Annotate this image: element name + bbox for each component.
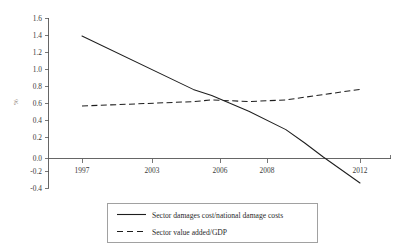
legend-label-sector-value-added: Sector value added/GDP bbox=[152, 228, 227, 237]
y-axis-ticks bbox=[45, 19, 49, 189]
chart-figure: 1.6 1.4 1.2 1.0 0.8 0.6 0.4 0.2 0.0 -0.2… bbox=[0, 0, 403, 250]
y-tick-label-0-2: 0.2 bbox=[33, 133, 43, 142]
x-tick-label-2003: 2003 bbox=[145, 166, 160, 175]
series-line-sector-damages-cost bbox=[82, 36, 360, 183]
legend-box bbox=[108, 204, 318, 243]
y-tick-label-1-0: 1.0 bbox=[33, 65, 43, 74]
y-tick-label-1-6: 1.6 bbox=[33, 14, 43, 23]
y-tick-label-0-6: 0.6 bbox=[33, 99, 43, 108]
y-tick-label-0-8: 0.8 bbox=[33, 82, 43, 91]
y-tick-label-neg-0-4: -0.4 bbox=[30, 184, 42, 193]
x-tick-label-2008: 2008 bbox=[260, 166, 275, 175]
series-line-sector-value-added bbox=[82, 89, 360, 106]
y-tick-label-1-2: 1.2 bbox=[33, 48, 43, 57]
line-chart: 1.6 1.4 1.2 1.0 0.8 0.6 0.4 0.2 0.0 -0.2… bbox=[0, 0, 403, 250]
y-tick-label-1-4: 1.4 bbox=[33, 31, 43, 40]
legend-label-sector-damages-cost: Sector damages cost/national damage cost… bbox=[152, 211, 283, 220]
chart-legend: Sector damages cost/national damage cost… bbox=[108, 204, 318, 243]
x-tick-label-1997: 1997 bbox=[75, 166, 90, 175]
x-tick-label-2012: 2012 bbox=[353, 166, 368, 175]
y-tick-label-0-4: 0.4 bbox=[33, 116, 43, 125]
y-axis-title: % bbox=[12, 99, 20, 105]
y-tick-label-0-0: 0.0 bbox=[33, 154, 43, 163]
x-tick-label-2006: 2006 bbox=[213, 166, 228, 175]
y-tick-label-neg-0-2: -0.2 bbox=[30, 167, 42, 176]
